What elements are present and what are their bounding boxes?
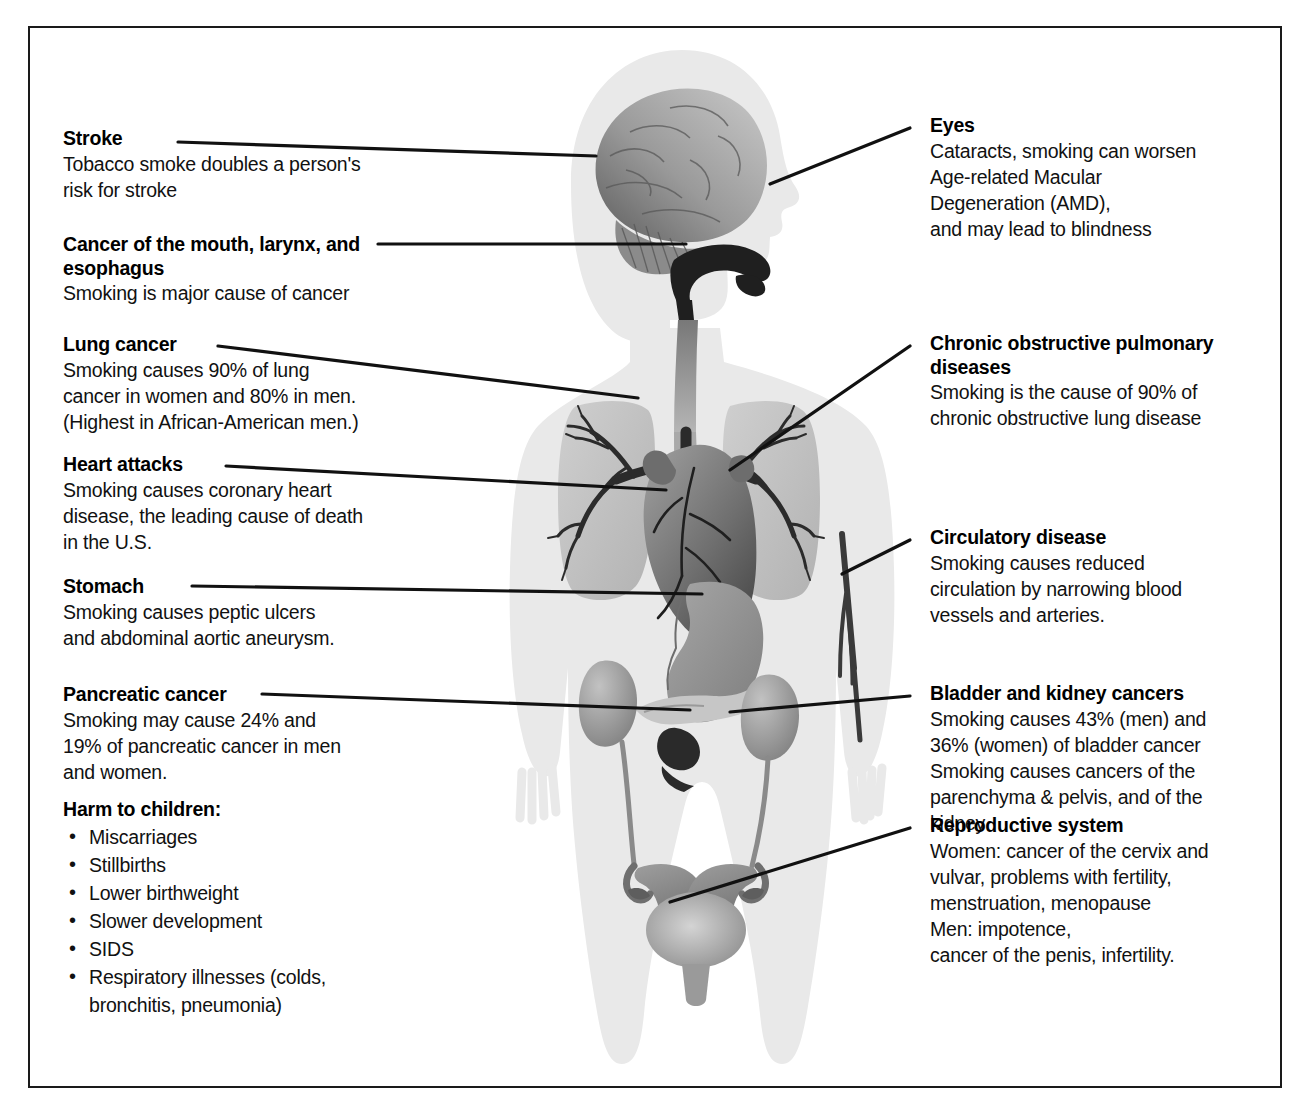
callout-heading: Circulatory disease <box>930 526 1265 550</box>
callout-reproductive-system[interactable]: Reproductive system Women: cancer of the… <box>930 814 1270 968</box>
callout-body: Cataracts, smoking can worsen Age-relate… <box>930 138 1265 242</box>
callout-heart-attacks[interactable]: Heart attacks Smoking causes coronary he… <box>63 453 413 555</box>
list-item: Slower development <box>63 907 403 935</box>
callout-heading: Reproductive system <box>930 814 1270 838</box>
callout-body: Smoking causes coronary heart disease, t… <box>63 477 413 555</box>
callout-stomach[interactable]: Stomach Smoking causes peptic ulcers and… <box>63 575 403 651</box>
diagram-stage: Stroke Tobacco smoke doubles a person's … <box>30 28 1280 1086</box>
callout-heading: Stomach <box>63 575 403 599</box>
callout-heading: Eyes <box>930 114 1265 138</box>
callout-body: Women: cancer of the cervix and vulvar, … <box>930 838 1270 968</box>
callout-heading: Heart attacks <box>63 453 413 477</box>
callout-eyes[interactable]: Eyes Cataracts, smoking can worsen Age-r… <box>930 114 1265 242</box>
callout-body: Tobacco smoke doubles a person's risk fo… <box>63 151 393 203</box>
list-item: Respiratory illnesses (colds, bronchitis… <box>63 963 403 1019</box>
callout-body: Smoking causes peptic ulcers and abdomin… <box>63 599 403 651</box>
callout-circulatory-disease[interactable]: Circulatory disease Smoking causes reduc… <box>930 526 1265 628</box>
callout-body: Smoking causes reduced circulation by na… <box>930 550 1265 628</box>
callout-body: Smoking causes 90% of lung cancer in wom… <box>63 357 423 435</box>
list-item: Stillbirths <box>63 851 403 879</box>
callout-body: Smoking is the cause of 90% of chronic o… <box>930 379 1265 431</box>
callout-heading: Bladder and kidney cancers <box>930 682 1275 706</box>
list-item: Lower birthweight <box>63 879 403 907</box>
callout-bladder-kidney-cancers[interactable]: Bladder and kidney cancers Smoking cause… <box>930 682 1275 836</box>
callout-harm-to-children[interactable]: Harm to children: Miscarriages Stillbirt… <box>63 798 403 1019</box>
callout-body: Smoking may cause 24% and 19% of pancrea… <box>63 707 408 785</box>
callout-heading: Stroke <box>63 127 393 151</box>
harm-to-children-heading: Harm to children: <box>63 798 403 822</box>
callout-heading: Cancer of the mouth, larynx, and esophag… <box>63 233 403 280</box>
callout-pancreatic-cancer[interactable]: Pancreatic cancer Smoking may cause 24% … <box>63 683 408 785</box>
callout-body: Smoking is major cause of cancer <box>63 280 403 306</box>
callout-mouth-larynx-esophagus[interactable]: Cancer of the mouth, larynx, and esophag… <box>63 233 403 306</box>
callout-heading: Chronic obstructive pulmonary diseases <box>930 332 1265 379</box>
callout-lung-cancer[interactable]: Lung cancer Smoking causes 90% of lung c… <box>63 333 423 435</box>
list-item: SIDS <box>63 935 403 963</box>
callout-heading: Pancreatic cancer <box>63 683 408 707</box>
list-item: Miscarriages <box>63 823 403 851</box>
diagram-frame: Stroke Tobacco smoke doubles a person's … <box>28 26 1282 1088</box>
callout-copd[interactable]: Chronic obstructive pulmonary diseases S… <box>930 332 1265 431</box>
callout-stroke[interactable]: Stroke Tobacco smoke doubles a person's … <box>63 127 393 203</box>
harm-to-children-list: Miscarriages Stillbirths Lower birthweig… <box>63 823 403 1019</box>
callout-heading: Lung cancer <box>63 333 423 357</box>
esophagus <box>674 320 698 432</box>
